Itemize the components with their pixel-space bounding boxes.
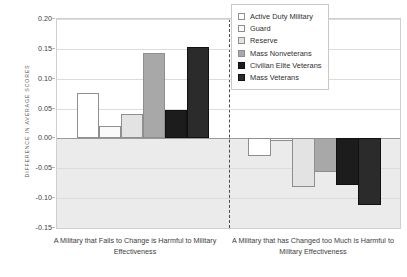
y-axis-tick-label: -0.05 xyxy=(26,163,52,172)
bar xyxy=(99,126,121,139)
legend-swatch xyxy=(238,74,245,81)
y-axis-tick-label: 0.05 xyxy=(26,103,52,112)
legend-label: Active Duty Military xyxy=(250,12,313,21)
y-axis-tick-label: 0.10 xyxy=(26,73,52,82)
legend-item: Civilian Elite Veterans xyxy=(238,59,321,71)
y-axis-tick-label: 0.15 xyxy=(26,43,52,52)
y-axis-tickmark xyxy=(52,167,55,168)
bar xyxy=(358,138,380,205)
y-axis-tickmark xyxy=(52,48,55,49)
y-axis-tickmark xyxy=(52,108,55,109)
bar xyxy=(248,138,270,155)
legend-label: Mass Nonveterans xyxy=(250,49,312,58)
bar xyxy=(336,138,358,185)
panel-caption-left: A Military that Fails to Change is Harmf… xyxy=(46,236,224,257)
legend-item: Mass Nonveterans xyxy=(238,47,321,59)
y-axis-tick-label: 0.00 xyxy=(26,133,52,142)
bar xyxy=(165,110,187,139)
bar xyxy=(270,138,292,141)
panel-divider-line xyxy=(229,19,230,228)
bar xyxy=(187,47,209,138)
legend-label: Reserve xyxy=(250,36,278,45)
y-axis-tickmark xyxy=(52,227,55,228)
legend-swatch xyxy=(238,37,245,44)
legend-item: Guard xyxy=(238,22,321,34)
chart-figure: DIFFERENCE IN AVERAGE SCORES 0.200.150.1… xyxy=(0,0,407,277)
legend: Active Duty MilitaryGuardReserveMass Non… xyxy=(231,4,329,90)
bar xyxy=(292,138,314,186)
legend-label: Civilian Elite Veterans xyxy=(250,61,321,70)
legend-swatch xyxy=(238,62,245,69)
legend-item: Active Duty Military xyxy=(238,10,321,22)
legend-swatch xyxy=(238,50,245,57)
legend-item: Reserve xyxy=(238,35,321,47)
y-axis-tickmark xyxy=(52,78,55,79)
legend-swatch xyxy=(238,25,245,32)
gridline xyxy=(57,49,400,50)
y-axis-tickmark xyxy=(52,137,55,138)
gridline xyxy=(57,19,400,20)
gridline xyxy=(57,79,400,80)
y-axis-tick-label: 0.20 xyxy=(26,14,52,23)
plot-area xyxy=(56,18,401,229)
legend-label: Guard xyxy=(250,24,271,33)
legend-item: Mass Veterans xyxy=(238,71,321,83)
y-axis-tickmark xyxy=(52,18,55,19)
bar xyxy=(314,138,336,171)
gridline xyxy=(57,109,400,110)
gridline xyxy=(57,228,400,229)
legend-label: Mass Veterans xyxy=(250,73,299,82)
legend-swatch xyxy=(238,13,245,20)
gridline xyxy=(57,198,400,199)
y-axis-tickmark xyxy=(52,197,55,198)
panel-caption-right: A Military that has Changed too Much is … xyxy=(224,236,402,257)
bar xyxy=(121,114,143,138)
bar xyxy=(143,53,165,138)
y-axis-tick-label: -0.10 xyxy=(26,193,52,202)
y-axis-tick-label: -0.15 xyxy=(26,223,52,232)
bar xyxy=(77,93,99,138)
